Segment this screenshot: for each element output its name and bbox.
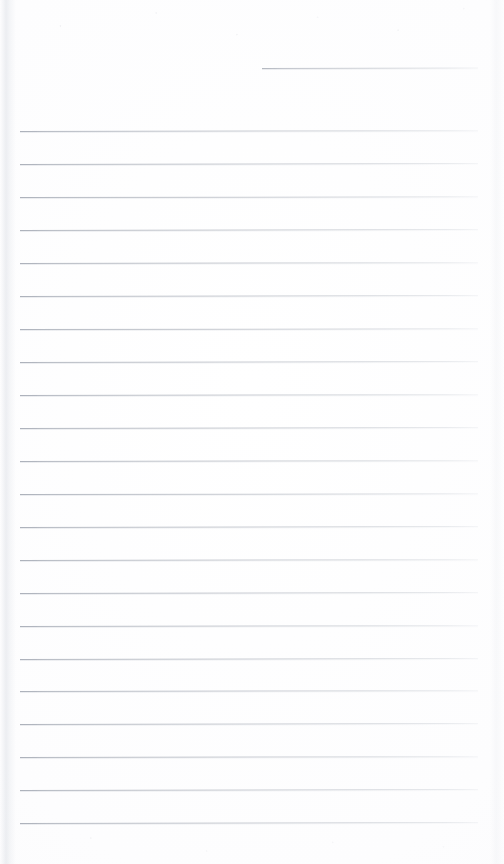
left-edge-scan-shadow bbox=[0, 0, 16, 864]
right-edge-scan-shadow bbox=[490, 0, 504, 864]
lined-page bbox=[0, 0, 504, 864]
header-blank-rule[interactable] bbox=[262, 68, 478, 69]
writing-area[interactable] bbox=[20, 96, 478, 840]
